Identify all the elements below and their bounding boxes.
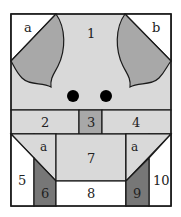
label-piece-5: 5 xyxy=(18,173,26,188)
label-corner-a: a xyxy=(24,20,32,35)
label-piece-2: 2 xyxy=(41,115,49,130)
quilt-pattern-diagram: a 1 b 2 3 4 a a 7 5 6 8 9 10 xyxy=(0,0,181,217)
label-piece-6: 6 xyxy=(41,186,49,201)
label-piece-9: 9 xyxy=(133,186,141,201)
label-lower-left-a: a xyxy=(40,140,47,154)
label-corner-b: b xyxy=(152,20,160,35)
label-piece-4: 4 xyxy=(132,115,140,130)
label-piece-7: 7 xyxy=(87,151,95,166)
label-piece-10: 10 xyxy=(153,173,170,188)
label-lower-right-a: a xyxy=(131,140,138,154)
label-piece-8: 8 xyxy=(87,186,95,201)
left-eye-dot xyxy=(67,90,79,102)
label-piece-3: 3 xyxy=(87,115,95,130)
right-eye-dot xyxy=(100,90,112,102)
label-piece-1: 1 xyxy=(87,26,95,41)
